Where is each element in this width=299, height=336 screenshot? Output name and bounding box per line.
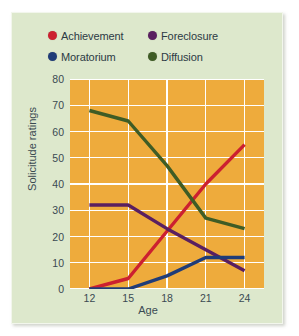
legend-dot-moratorium-icon bbox=[48, 52, 57, 61]
y-tick-label: 40 bbox=[38, 179, 64, 190]
y-tick-label: 80 bbox=[38, 74, 64, 85]
legend-dot-diffusion-icon bbox=[148, 52, 157, 61]
y-tick-label: 50 bbox=[38, 153, 64, 164]
legend-item-foreclosure: Foreclosure bbox=[148, 25, 248, 46]
plot-area bbox=[70, 79, 264, 289]
x-tick-label: 18 bbox=[152, 293, 182, 304]
y-tick-label: 20 bbox=[38, 232, 64, 243]
y-tick-label: 70 bbox=[38, 100, 64, 111]
legend-label-foreclosure: Foreclosure bbox=[161, 30, 218, 42]
y-tick-label: 0 bbox=[38, 284, 64, 295]
x-tick-label: 21 bbox=[191, 293, 221, 304]
legend-item-achievement: Achievement bbox=[48, 25, 148, 46]
legend-label-moratorium: Moratorium bbox=[61, 51, 116, 63]
legend-dot-foreclosure-icon bbox=[148, 31, 157, 40]
y-axis-label: Solicitude ratings bbox=[26, 79, 38, 219]
y-tick-label: 30 bbox=[38, 205, 64, 216]
chart-figure: Achievement Foreclosure Moratorium Diffu… bbox=[11, 12, 283, 324]
y-tick-label: 60 bbox=[38, 127, 64, 138]
x-tick-label: 12 bbox=[74, 293, 104, 304]
legend-label-diffusion: Diffusion bbox=[161, 51, 203, 63]
y-tick-label: 10 bbox=[38, 258, 64, 269]
x-tick-label: 24 bbox=[230, 293, 260, 304]
x-tick-label: 15 bbox=[113, 293, 143, 304]
legend-dot-achievement-icon bbox=[48, 31, 57, 40]
legend-label-achievement: Achievement bbox=[61, 30, 124, 42]
legend-row: Moratorium Diffusion bbox=[48, 46, 258, 67]
legend-row: Achievement Foreclosure bbox=[48, 25, 258, 46]
chart-lines bbox=[70, 79, 264, 289]
x-axis-label: Age bbox=[12, 304, 284, 316]
legend-item-moratorium: Moratorium bbox=[48, 46, 148, 67]
chart-legend: Achievement Foreclosure Moratorium Diffu… bbox=[48, 25, 258, 67]
legend-item-diffusion: Diffusion bbox=[148, 46, 248, 67]
